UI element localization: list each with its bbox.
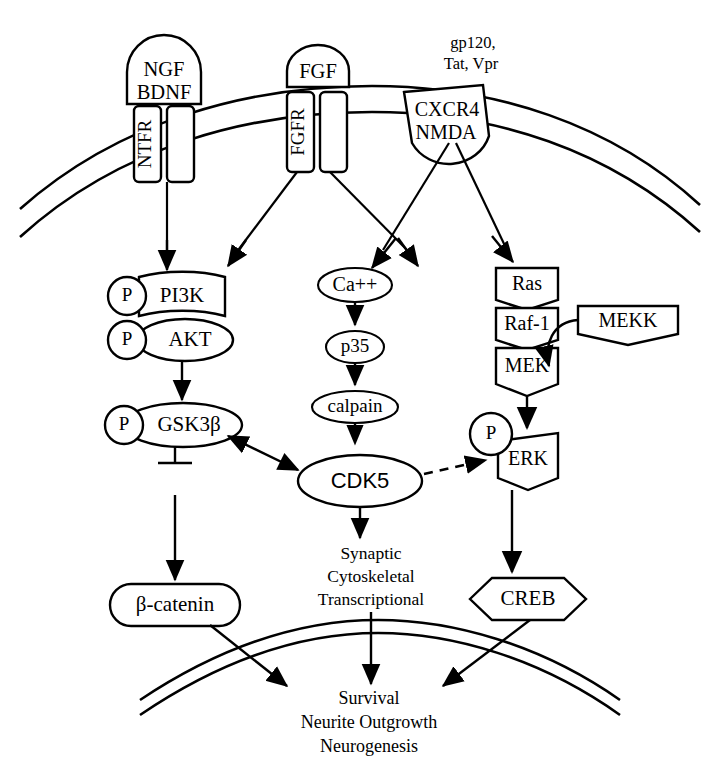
node-cdk5-label: CDK5 xyxy=(331,468,390,493)
output-neurogenesis-label: Neurogenesis xyxy=(320,736,418,756)
node-akt-label: AKT xyxy=(168,327,211,351)
arrow-cdk5-to-erk xyxy=(424,460,486,474)
phospho-pi3k-label: P xyxy=(122,284,133,305)
cell-membrane xyxy=(20,86,700,237)
node-raf1-label: Raf-1 xyxy=(504,312,550,334)
effect-cytoskeletal-label: Cytoskeletal xyxy=(327,566,415,586)
cdk5-effects-text: Synaptic Cytoskeletal Transcriptional xyxy=(318,543,424,609)
ligand-bdnf-label: BDNF xyxy=(137,81,192,103)
node-p35[interactable]: p35 xyxy=(326,331,384,363)
receptor-ntfr-label: NTFR xyxy=(134,119,155,168)
node-beta-catenin-label: β-catenin xyxy=(136,592,215,616)
receptor-fgfr[interactable]: FGFR xyxy=(287,92,347,172)
node-creb[interactable]: CREB xyxy=(470,578,586,620)
hiv-protein-labels: gp120, Tat, Vpr xyxy=(444,33,499,73)
output-survival-label: Survival xyxy=(339,688,400,708)
receptor-cxcr4-label: CXCR4 xyxy=(415,98,479,120)
effect-synaptic-label: Synaptic xyxy=(340,543,401,563)
node-p35-label: p35 xyxy=(341,335,370,356)
ligand-fgf[interactable]: FGF xyxy=(287,45,349,87)
node-calcium-label: Ca++ xyxy=(333,273,378,295)
phospho-gsk3b-label: P xyxy=(119,413,130,434)
effect-transcriptional-label: Transcriptional xyxy=(318,589,424,609)
node-mekk-label: MEKK xyxy=(599,309,658,331)
node-ras[interactable]: Ras xyxy=(496,268,558,310)
node-pi3k[interactable]: PI3K xyxy=(139,272,225,316)
node-pi3k-label: PI3K xyxy=(160,283,204,307)
phospho-akt[interactable]: P xyxy=(108,321,146,359)
phospho-erk-label: P xyxy=(486,422,497,443)
arrow-gsk3b-cdk5-bidirectional xyxy=(228,436,298,470)
receptor-nmda-label: NMDA xyxy=(415,121,477,143)
arrow-creb-to-survival xyxy=(443,620,530,686)
node-calpain[interactable]: calpain xyxy=(312,391,398,423)
phospho-erk[interactable]: P xyxy=(470,413,512,455)
ligand-fgf-label: FGF xyxy=(299,60,337,82)
node-erk-label: ERK xyxy=(508,447,549,469)
phospho-akt-label: P xyxy=(122,328,133,349)
hiv-gp120-label: gp120, xyxy=(450,33,495,52)
receptor-ntfr[interactable]: NTFR xyxy=(134,106,194,182)
node-beta-catenin[interactable]: β-catenin xyxy=(110,584,240,626)
node-mek-label: MEK xyxy=(505,354,550,376)
node-ras-label: Ras xyxy=(512,272,542,294)
ligand-ngf-bdnf[interactable]: NGF BDNF xyxy=(127,35,201,104)
node-gsk3b-label: GSK3β xyxy=(157,412,220,436)
pathway-diagram-canvas: NGF BDNF FGF gp120, Tat, Vpr NTFR FGFR C… xyxy=(0,0,706,764)
hiv-tat-vpr-label: Tat, Vpr xyxy=(444,54,499,73)
final-outputs-text: Survival Neurite Outgrowth Neurogenesis xyxy=(301,688,437,756)
node-akt[interactable]: AKT xyxy=(137,319,233,361)
gsk3b-inhibition-bar xyxy=(158,447,192,463)
phospho-gsk3b[interactable]: P xyxy=(105,406,143,444)
receptor-fgfr-label: FGFR xyxy=(287,108,308,156)
ligand-ngf-label: NGF xyxy=(143,58,184,80)
output-neurite-outgrowth-label: Neurite Outgrowth xyxy=(301,712,437,732)
node-mekk[interactable]: MEKK xyxy=(578,306,678,345)
receptor-cxcr4-nmda[interactable]: CXCR4 NMDA xyxy=(404,85,489,164)
receptor-arrowheads xyxy=(167,236,513,270)
phospho-pi3k[interactable]: P xyxy=(108,277,146,315)
node-calpain-label: calpain xyxy=(328,395,383,416)
node-calcium[interactable]: Ca++ xyxy=(318,268,392,302)
node-cdk5[interactable]: CDK5 xyxy=(298,455,422,507)
signaling-pathway-svg: NGF BDNF FGF gp120, Tat, Vpr NTFR FGFR C… xyxy=(0,0,706,764)
node-creb-label: CREB xyxy=(501,586,556,610)
